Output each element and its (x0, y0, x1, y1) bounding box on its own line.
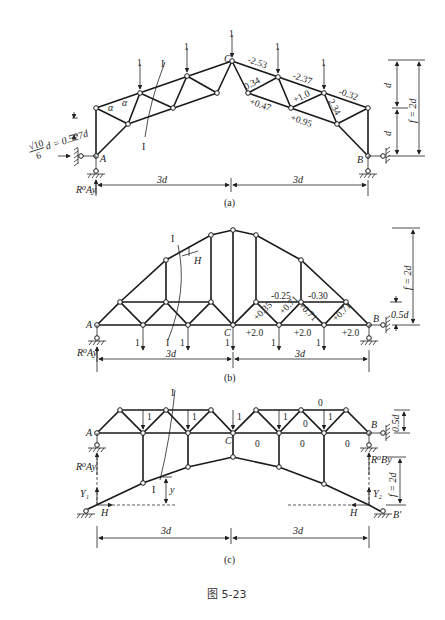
rise-dimension-a: d d f = 2d (382, 60, 425, 156)
y-label: y (169, 484, 175, 495)
support-c-bottom-left (77, 509, 95, 518)
svg-text:d: d (382, 130, 393, 136)
member-forces-a: -2.53 -2.37 -0.32 0.34 +1.0 2.34 +0.47 +… (242, 54, 359, 129)
svg-text:1: 1 (283, 412, 288, 422)
svg-text:f = 2d: f = 2d (407, 97, 418, 123)
figure-5-23: 1 1 1 1 1 I I α α A C B R⁰Ay √10 6 d = 0… (0, 0, 445, 620)
svg-text:-0.30: -0.30 (308, 291, 328, 301)
load-label: 1 (275, 42, 280, 52)
svg-text:0: 0 (318, 398, 323, 408)
subfigure-c: R⁰Ay Y₁ H R⁰By Y₂ H B' 1 1 1 1 1 (75, 387, 410, 566)
section-line-c (160, 390, 175, 480)
svg-text:I: I (152, 484, 155, 495)
svg-text:1: 1 (316, 338, 321, 348)
node-label-C: C (224, 53, 231, 64)
svg-text:f = 2d: f = 2d (387, 471, 398, 497)
svg-text:I: I (166, 337, 169, 348)
svg-text:3d: 3d (165, 348, 177, 359)
subfigure-b: 1 1 1 1 1 I I H A C B R⁰Ay -0.25 -0.30 +… (76, 228, 420, 384)
svg-text:R⁰Ay: R⁰Ay (76, 347, 98, 358)
svg-text:C: C (224, 327, 231, 338)
svg-text:Y₁: Y₁ (80, 488, 89, 499)
truss-c-members (88, 410, 380, 511)
svg-text:+0.47: +0.47 (248, 96, 272, 113)
thrust-label: H (193, 255, 202, 266)
svg-text:C: C (225, 435, 232, 446)
subfigure-label-a: (a) (224, 197, 235, 209)
rise-dimension-b: f = 2d 0.5d (390, 228, 420, 331)
subfigure-a: 1 1 1 1 1 I I α α A C B R⁰Ay √10 6 d = 0… (27, 29, 425, 209)
svg-text:+2.0: +2.0 (246, 328, 263, 338)
figure-caption: 图 5-23 (207, 588, 246, 601)
svg-text:1: 1 (271, 338, 276, 348)
svg-text:R⁰By: R⁰By (370, 454, 392, 465)
section-label: I (161, 58, 164, 69)
svg-text:0: 0 (345, 439, 350, 449)
svg-text:-2.37: -2.37 (291, 70, 313, 86)
svg-text:1: 1 (225, 338, 230, 348)
svg-text:1: 1 (237, 412, 242, 422)
svg-text:-0.32: -0.32 (337, 86, 359, 102)
svg-text:1: 1 (192, 412, 197, 422)
subfigure-label-c: (c) (224, 554, 235, 566)
svg-text:3d: 3d (160, 525, 172, 536)
angle-label: α (122, 97, 128, 108)
offset-value: d = 0.527d (44, 127, 90, 151)
svg-text:+2.0: +2.0 (294, 328, 311, 338)
svg-text:0: 0 (303, 419, 308, 429)
svg-text:+2.0: +2.0 (342, 328, 359, 338)
svg-text:1: 1 (135, 338, 140, 348)
span-dimension-b: 3d 3d (97, 348, 369, 372)
load-label: 1 (137, 58, 142, 68)
svg-text:0: 0 (255, 439, 260, 449)
node-label-A: A (99, 153, 107, 164)
svg-text:H: H (349, 507, 358, 518)
svg-text:A: A (85, 319, 93, 330)
svg-text:+1.0: +1.0 (291, 88, 311, 105)
svg-text:A: A (85, 427, 93, 438)
svg-text:3d: 3d (292, 174, 304, 185)
node-label-B: B (357, 154, 363, 165)
svg-text:H: H (100, 507, 109, 518)
svg-text:B: B (373, 313, 379, 324)
span-dimension-c: 3d 3d (97, 525, 369, 548)
svg-text:I: I (171, 387, 174, 398)
svg-text:2.34: 2.34 (326, 97, 343, 117)
section-label: I (142, 141, 145, 152)
svg-text:d: d (382, 82, 393, 88)
load-label: 1 (184, 42, 189, 52)
svg-text:0: 0 (300, 439, 305, 449)
svg-text:R⁰Ay: R⁰Ay (75, 461, 97, 472)
subfigure-label-b: (b) (224, 372, 236, 384)
svg-text:0.5d: 0.5d (391, 309, 410, 320)
truss-b-members (97, 230, 369, 325)
svg-text:1: 1 (180, 338, 185, 348)
svg-text:0.5d: 0.5d (390, 414, 401, 433)
svg-text:1: 1 (147, 412, 152, 422)
span-dimension-a: 3d 3d (96, 174, 368, 196)
svg-text:3d: 3d (294, 348, 306, 359)
offset-denominator: 6 (35, 150, 43, 161)
svg-text:1: 1 (328, 412, 333, 422)
load-label: 1 (229, 29, 234, 39)
svg-text:B: B (371, 419, 377, 430)
svg-text:Y₂: Y₂ (373, 488, 383, 499)
truss-a-nodes (94, 59, 371, 159)
svg-text:3d: 3d (156, 174, 168, 185)
reaction-label: R⁰Ay (75, 184, 97, 195)
truss-a-members (96, 61, 368, 156)
svg-text:+0.71: +0.71 (297, 300, 320, 323)
load-label: 1 (321, 58, 326, 68)
svg-text:3d: 3d (292, 525, 304, 536)
panel-dimension-c: 0.5d (390, 410, 410, 433)
svg-text:I: I (171, 233, 174, 244)
svg-text:B': B' (393, 509, 402, 520)
angle-label: α (108, 102, 114, 113)
svg-text:f = 2d: f = 2d (402, 264, 413, 290)
svg-text:+0.71: +0.71 (330, 301, 353, 324)
svg-text:0.34: 0.34 (242, 75, 262, 92)
svg-text:-2.53: -2.53 (246, 54, 268, 70)
